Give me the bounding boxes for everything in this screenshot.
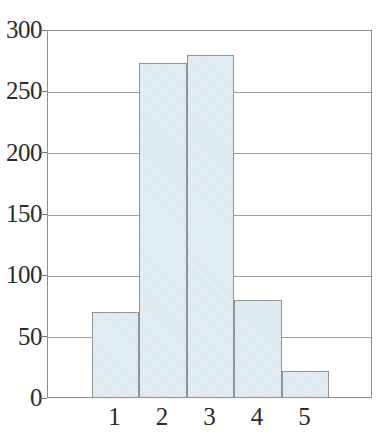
y-axis-tick-mark [40,91,47,92]
x-axis: 12345 [47,404,372,440]
y-axis-tick-mark [40,275,47,276]
y-axis-tick-mark [40,30,47,31]
bar [139,63,187,397]
bar [234,300,282,397]
y-axis-tick-mark [40,214,47,215]
y-axis-tick-mark [40,152,47,153]
plot-area [47,30,372,398]
y-axis-tick-label: 300 [0,17,42,42]
bar [92,312,140,397]
x-axis-tick-label: 2 [138,404,186,429]
y-axis-tick-label: 0 [0,385,42,410]
y-axis-tick-label: 250 [0,78,42,103]
bar [187,55,235,397]
y-axis-tick-label: 100 [0,262,42,287]
y-axis: 050100150200250300 [0,0,42,441]
bars-layer [48,31,371,397]
y-axis-tick-label: 200 [0,140,42,165]
x-axis-tick-label: 1 [91,404,139,429]
x-axis-tick-label: 4 [233,404,281,429]
y-axis-tick-label: 50 [0,324,42,349]
y-axis-tick-label: 150 [0,201,42,226]
x-axis-tick-label: 5 [281,404,329,429]
y-axis-tick-mark [40,336,47,337]
bar [282,371,330,397]
y-axis-tick-mark [40,398,47,399]
histogram-chart: 050100150200250300 12345 [0,0,383,441]
x-axis-tick-label: 3 [186,404,234,429]
